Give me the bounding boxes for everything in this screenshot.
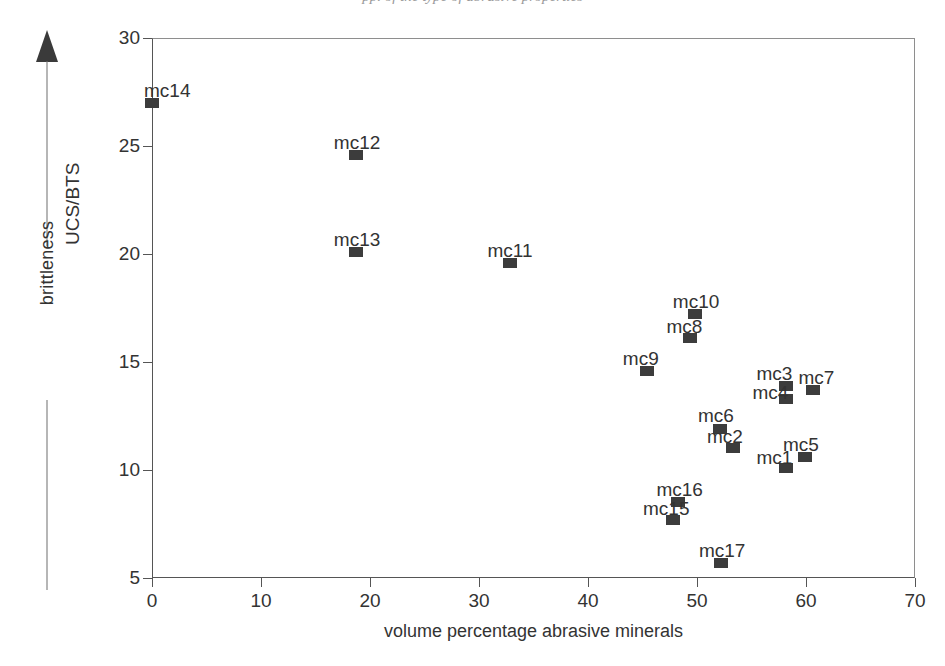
x-axis-title: volume percentage abrasive minerals <box>152 621 915 642</box>
x-tick-label: 70 <box>904 590 925 612</box>
y-tick-mark <box>143 470 152 471</box>
data-point-label: mc12 <box>334 133 380 152</box>
data-point-label: mc17 <box>699 541 745 560</box>
x-tick-label: 10 <box>250 590 271 612</box>
x-tick-mark <box>588 578 589 587</box>
up-arrow-icon <box>36 30 58 62</box>
y-tick-mark <box>143 578 152 579</box>
data-point-label: mc15 <box>643 499 689 518</box>
data-point-label: mc1 <box>756 448 792 467</box>
y-tick-label: 25 <box>119 135 140 157</box>
y-tick-label: 10 <box>119 459 140 481</box>
y-tick-label: 15 <box>119 351 140 373</box>
data-point-label: mc14 <box>144 81 190 100</box>
brittleness-axis-label: brittleness <box>36 192 58 334</box>
y-tick-mark <box>143 38 152 39</box>
y-tick-label: 30 <box>119 27 140 49</box>
y-tick-mark <box>143 254 152 255</box>
x-tick-label: 0 <box>147 590 158 612</box>
x-tick-mark <box>479 578 480 587</box>
x-tick-mark <box>697 578 698 587</box>
x-tick-label: 50 <box>686 590 707 612</box>
brittleness-axis-line-lower <box>47 400 48 590</box>
brittleness-arrow-axis: brittleness <box>26 30 68 590</box>
x-tick-mark <box>152 578 153 587</box>
x-tick-mark <box>261 578 262 587</box>
data-point-label: mc2 <box>707 427 743 446</box>
data-point-label: mc9 <box>623 349 659 368</box>
y-axis-title: UCS/BTS <box>62 163 84 245</box>
plot-area: 010203040506070 51015202530 mc14mc12mc13… <box>152 38 915 578</box>
data-point-label: mc4 <box>752 383 788 402</box>
x-tick-label: 30 <box>468 590 489 612</box>
x-tick-label: 40 <box>577 590 598 612</box>
x-tick-label: 60 <box>795 590 816 612</box>
data-point-label: mc13 <box>334 230 380 249</box>
data-point-label: mc10 <box>673 292 719 311</box>
y-tick-label: 5 <box>129 567 140 589</box>
data-point-label: mc7 <box>799 368 835 387</box>
x-tick-mark <box>370 578 371 587</box>
x-tick-label: 20 <box>359 590 380 612</box>
data-point-label: mc8 <box>666 317 702 336</box>
data-point-label: mc11 <box>488 241 533 260</box>
page-running-head: pp. of the type of abrasive properties <box>0 0 945 11</box>
y-tick-label: 20 <box>119 243 140 265</box>
scatter-plot-figure: pp. of the type of abrasive properties b… <box>0 0 945 666</box>
page-running-head-text: pp. of the type of abrasive properties <box>362 0 583 4</box>
data-point-label: mc16 <box>656 480 702 499</box>
x-tick-mark <box>806 578 807 587</box>
x-tick-mark <box>915 578 916 587</box>
data-point-label: mc3 <box>756 364 792 383</box>
data-point-label: mc6 <box>698 406 734 425</box>
y-tick-mark <box>143 362 152 363</box>
y-tick-mark <box>143 146 152 147</box>
